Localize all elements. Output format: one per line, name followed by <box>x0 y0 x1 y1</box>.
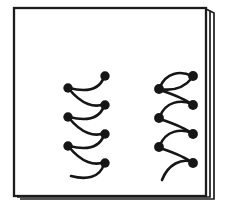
right-group-dot-l1 <box>154 84 164 94</box>
left-group-dot-l3 <box>63 141 72 150</box>
page-card-frame <box>14 8 214 199</box>
arc-diagram-figure <box>0 0 244 212</box>
right-group-dot-l2 <box>154 113 164 123</box>
right-group-dot-r4 <box>188 158 198 168</box>
left-group-dot-l1 <box>63 83 72 92</box>
right-group-dot-r1 <box>188 71 198 81</box>
left-group-dot-r4 <box>100 158 109 167</box>
right-group-dot-l3 <box>154 142 164 152</box>
left-group-dot-l2 <box>63 112 72 121</box>
left-group-dot-r1 <box>100 71 109 80</box>
right-group-dot-r3 <box>188 129 198 139</box>
right-group-dot-r2 <box>188 100 198 110</box>
drawing-canvas <box>0 0 244 212</box>
left-group-dot-r3 <box>100 129 109 138</box>
left-group-dot-r2 <box>100 100 109 109</box>
